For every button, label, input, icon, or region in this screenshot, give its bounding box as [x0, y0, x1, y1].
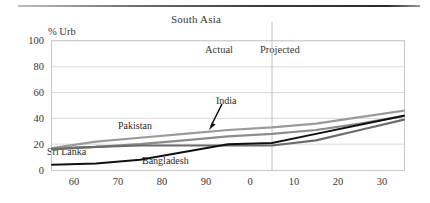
plot-frame	[52, 41, 405, 171]
chart-canvas	[0, 0, 430, 203]
india-arrow-icon	[209, 104, 222, 130]
series-line-pakistan	[52, 111, 404, 148]
chart-figure: South Asia % Urb 100 80 60 40 20 0 60 70…	[0, 0, 430, 203]
gridlines	[52, 41, 404, 144]
